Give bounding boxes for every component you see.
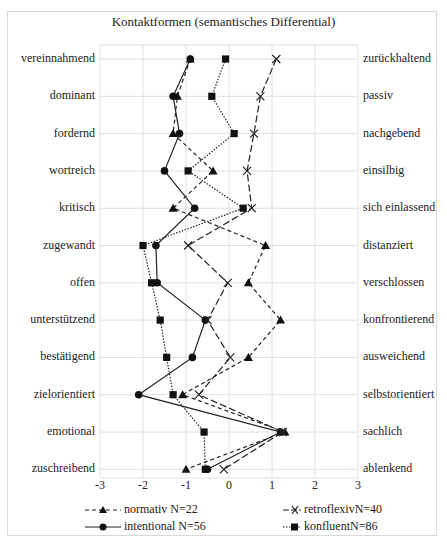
- square-dotted-legend-icon: [283, 522, 301, 532]
- left-label: kritisch: [0, 200, 95, 215]
- x-tick-label: -2: [133, 478, 153, 493]
- left-label: zugewandt: [0, 238, 95, 253]
- right-label: zurückhaltend: [363, 51, 431, 66]
- x-longdash-legend-icon: [283, 505, 301, 515]
- right-label: einsilbig: [363, 163, 404, 178]
- legend-item-normativ: normativ N=22: [85, 502, 198, 517]
- circle-solid-legend-icon: [85, 522, 121, 532]
- left-label: dominant: [0, 88, 95, 103]
- right-label: ausweichend: [363, 349, 425, 364]
- left-label: zielorientiert: [0, 387, 95, 402]
- legend-item-konfluent: konfluentN=86: [283, 519, 377, 534]
- right-label: ablenkend: [363, 461, 412, 476]
- right-label: konfrontierend: [363, 312, 434, 327]
- x-tick-label: -1: [176, 478, 196, 493]
- right-label: sich einlassend: [363, 200, 435, 215]
- right-label: distanziert: [363, 238, 413, 253]
- legend-label: konfluentN=86: [304, 519, 377, 534]
- left-label: offen: [0, 275, 95, 290]
- right-label: selbstorientiert: [363, 387, 434, 402]
- series-lines: [135, 55, 290, 474]
- right-label: verschlossen: [363, 275, 424, 290]
- grid-lines: [100, 45, 358, 478]
- left-label: zuschreibend: [0, 461, 95, 476]
- right-label: passiv: [363, 88, 393, 103]
- left-label: fordernd: [0, 126, 95, 141]
- legend-item-retroflexiv: retroflexivN=40: [283, 502, 382, 517]
- left-label: vereinnahmend: [0, 51, 95, 66]
- x-tick-label: 3: [348, 478, 368, 493]
- left-label: emotional: [0, 424, 95, 439]
- right-label: sachlich: [363, 424, 402, 439]
- legend-label: retroflexivN=40: [304, 502, 382, 517]
- left-label: wortreich: [0, 163, 95, 178]
- right-label: nachgebend: [363, 126, 420, 141]
- triangle-dashed-legend-icon: [85, 505, 121, 515]
- legend-label: normativ N=22: [124, 502, 198, 517]
- legend-label: intentional N=56: [124, 519, 206, 534]
- x-tick-label: -3: [90, 478, 110, 493]
- legend-item-intentional: intentional N=56: [85, 519, 206, 534]
- left-label: unterstützend: [0, 312, 95, 327]
- left-label: bestätigend: [0, 349, 95, 364]
- x-tick-label: 0: [219, 478, 239, 493]
- x-tick-label: 1: [262, 478, 282, 493]
- x-tick-label: 2: [305, 478, 325, 493]
